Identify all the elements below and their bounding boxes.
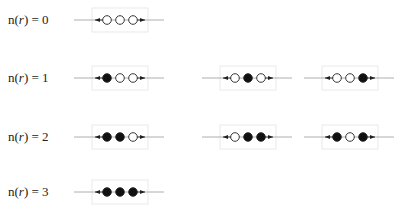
config-r0-c0 [74,7,166,33]
row-label-2: n(r) = 2 [8,130,49,144]
empty-site-icon [231,133,240,142]
occupied-site-icon [103,74,112,83]
empty-site-icon [231,74,240,83]
config-r3-c0 [74,179,166,205]
occupied-site-icon [244,133,253,142]
occupied-site-icon [103,133,112,142]
config-r1-c2 [304,65,396,91]
config-r2-c0 [74,124,166,150]
occupied-site-icon [333,133,342,142]
empty-site-icon [346,74,355,83]
empty-site-icon [257,74,266,83]
row-label-3: n(r) = 3 [8,185,49,199]
empty-site-icon [116,16,125,25]
occupied-site-icon [116,133,125,142]
row-label-1: n(r) = 1 [8,71,49,85]
occupied-site-icon [116,188,125,197]
occupied-site-icon [103,188,112,197]
empty-site-icon [103,16,112,25]
row-label-0: n(r) = 0 [8,13,49,27]
occupied-site-icon [359,133,368,142]
occupied-site-icon [244,74,253,83]
config-r1-c0 [74,65,166,91]
empty-site-icon [116,74,125,83]
empty-site-icon [129,133,138,142]
config-r2-c2 [304,124,396,150]
empty-site-icon [333,74,342,83]
config-r1-c1 [202,65,294,91]
config-r2-c1 [202,124,294,150]
occupied-site-icon [359,74,368,83]
occupied-site-icon [257,133,266,142]
empty-site-icon [129,74,138,83]
empty-site-icon [129,16,138,25]
occupied-site-icon [129,188,138,197]
empty-site-icon [346,133,355,142]
